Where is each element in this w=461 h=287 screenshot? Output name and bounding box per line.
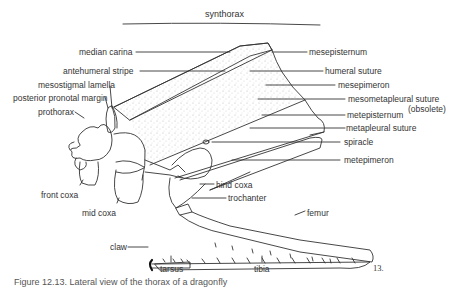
label-mesostigmal-lamella: mesostigmal lamella bbox=[38, 80, 115, 90]
label-tibia: tibia bbox=[254, 264, 270, 274]
label-posterior-pronotal-margin: posterior pronotal margin bbox=[13, 93, 108, 103]
label-trochanter: trochanter bbox=[228, 193, 266, 203]
label-humeral-suture: humeral suture bbox=[325, 66, 382, 76]
label-antehumeral-stripe: antehumeral stripe bbox=[63, 66, 133, 76]
label-mid-coxa: mid coxa bbox=[82, 208, 116, 218]
label-mesepimeron: mesepimeron bbox=[338, 80, 390, 90]
synthorax-title: synthorax bbox=[205, 9, 244, 19]
figure-caption: Figure 12.13. Lateral view of the thorax… bbox=[14, 277, 227, 287]
figure-number: 13. bbox=[373, 263, 384, 273]
label-hind-coxa: hind coxa bbox=[216, 180, 252, 190]
label-front-coxa: front coxa bbox=[41, 190, 78, 200]
label-prothorax: prothorax bbox=[38, 107, 74, 117]
label-claw: claw bbox=[110, 242, 127, 252]
label-metepimeron: metepimeron bbox=[344, 155, 394, 165]
label-mesepisternum: mesepisternum bbox=[309, 47, 367, 57]
label-femur: femur bbox=[307, 208, 329, 218]
label-obsolete-note: (obsolete) bbox=[408, 104, 446, 114]
label-metapleural-suture: metapleural suture bbox=[346, 123, 416, 133]
label-metepisternum: metepisternum bbox=[347, 110, 403, 120]
label-spiracle: spiracle bbox=[344, 137, 373, 147]
label-median-carina: median carina bbox=[79, 47, 132, 57]
label-mesometapleural-suture: mesometapleural suture bbox=[348, 94, 439, 104]
label-tarsus: tarsus bbox=[160, 264, 183, 274]
